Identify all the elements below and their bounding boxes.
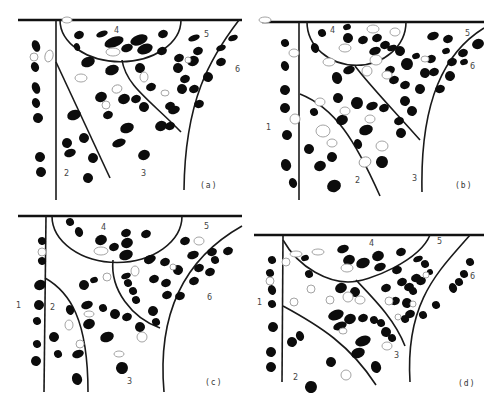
open-cell — [131, 266, 139, 276]
filled-cell — [353, 138, 364, 150]
filled-cell — [317, 28, 327, 38]
filled-cell — [95, 29, 108, 39]
region-label: 3 — [394, 351, 399, 360]
open-cell — [315, 98, 325, 106]
region-label: 1 — [266, 123, 271, 132]
open-cell — [390, 28, 400, 36]
filled-cell — [358, 123, 375, 137]
region-label: 5 — [204, 222, 209, 231]
panel-label: (b) — [455, 181, 472, 190]
filled-cell — [128, 286, 138, 296]
region-label: 4 — [330, 26, 335, 35]
region-label: 6 — [470, 272, 475, 281]
open-cell — [316, 125, 330, 137]
filled-cell — [131, 295, 141, 305]
filled-cell — [137, 148, 152, 162]
filled-cell — [330, 71, 344, 86]
open-cell — [65, 320, 73, 330]
filled-cell — [111, 137, 127, 149]
filled-cell — [281, 129, 294, 142]
filled-cell — [279, 102, 292, 115]
open-cell — [111, 84, 123, 95]
filled-cell — [193, 263, 205, 274]
filled-cell — [459, 58, 469, 66]
filled-cell — [172, 62, 185, 75]
filled-cell — [66, 108, 83, 122]
region-label: 2 — [355, 176, 360, 185]
filled-cell — [145, 82, 157, 93]
filled-cell — [365, 100, 379, 112]
filled-cell — [30, 355, 43, 368]
open-cell — [266, 277, 274, 285]
filled-cell — [82, 172, 95, 185]
open-cell — [339, 44, 351, 52]
open-cell — [102, 101, 110, 109]
filled-cell — [335, 113, 350, 127]
filled-cell — [118, 248, 135, 262]
filled-cell — [391, 265, 403, 276]
filled-cell — [87, 152, 100, 165]
region-label: 2 — [64, 169, 69, 178]
filled-cell — [30, 81, 42, 95]
filled-cell — [204, 267, 216, 278]
filled-cell — [326, 151, 339, 164]
filled-cell — [303, 379, 318, 394]
filled-cell — [187, 33, 200, 43]
region-label: 3 — [412, 174, 417, 183]
open-cell — [355, 296, 365, 304]
filled-cell — [160, 278, 172, 289]
filled-cell — [157, 29, 169, 40]
filled-cell — [309, 107, 319, 117]
open-cell — [62, 17, 72, 23]
filled-cell — [411, 52, 421, 60]
filled-cell — [279, 158, 293, 173]
filled-cell — [186, 249, 200, 261]
region-label: 5 — [465, 29, 470, 38]
filled-cell — [102, 110, 114, 121]
region-label: 3 — [127, 377, 132, 386]
filled-cell — [120, 228, 132, 239]
filled-cell — [393, 116, 405, 127]
region-boundary — [122, 60, 181, 132]
open-cell — [114, 351, 124, 357]
open-cell — [30, 53, 38, 61]
filled-cell — [99, 330, 116, 344]
filled-cell — [414, 83, 427, 96]
filled-cell — [369, 360, 383, 375]
filled-cell — [336, 243, 350, 255]
filled-cell — [61, 137, 74, 150]
open-cell — [382, 71, 392, 79]
filled-cell — [444, 70, 457, 83]
filled-cell — [313, 159, 328, 173]
filled-cell — [428, 67, 440, 78]
open-cell — [38, 248, 46, 256]
filled-cell — [119, 121, 136, 135]
filled-cell — [380, 283, 392, 294]
filled-cell — [399, 80, 411, 91]
filled-cell — [173, 53, 185, 64]
filled-cell — [371, 33, 383, 44]
region-label: 1 — [16, 301, 21, 310]
filled-cell — [176, 83, 189, 96]
filled-cell — [108, 242, 120, 253]
region-label: 6 — [470, 62, 475, 71]
figure-canvas: 23456(a) 123456(b) 123456(c) 123456(d) — [0, 0, 484, 407]
filled-cell — [138, 101, 151, 114]
open-cell — [170, 264, 176, 270]
open-cell — [103, 273, 111, 281]
filled-cell — [418, 310, 428, 320]
open-cell — [161, 90, 169, 96]
filled-cell — [147, 305, 160, 318]
open-cell — [290, 298, 298, 306]
filled-cell — [82, 317, 97, 331]
open-cell — [365, 115, 375, 123]
open-cell — [341, 370, 351, 380]
open-cell — [326, 296, 334, 304]
filled-cell — [74, 226, 85, 238]
filled-cell — [120, 271, 131, 280]
filled-cell — [48, 331, 61, 344]
open-cell — [106, 48, 120, 56]
filled-cell — [267, 299, 277, 309]
filled-cell — [114, 360, 129, 375]
filled-cell — [288, 177, 299, 189]
